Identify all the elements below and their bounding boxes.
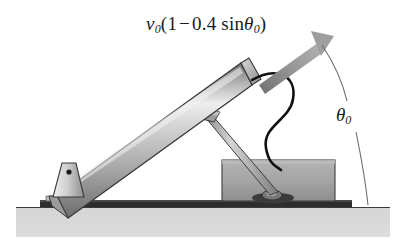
figure-root: v0(1−0.4 sinθ0) θ0 xyxy=(0,0,405,241)
velocity-arrow xyxy=(259,31,334,94)
theta-symbol: θ xyxy=(336,104,345,125)
coefficient: 0.4 xyxy=(192,13,216,34)
sin-function: sin xyxy=(221,13,244,34)
theta-label: θ0 xyxy=(336,104,351,128)
theta-subscript: 0 xyxy=(345,113,351,127)
close-paren: ) xyxy=(260,13,267,34)
velocity-symbol: v xyxy=(146,13,155,34)
angle-symbol: θ xyxy=(244,13,254,34)
minus-operator: − xyxy=(177,13,192,34)
one-term: 1 xyxy=(167,13,177,34)
pivot-pin xyxy=(66,169,71,174)
velocity-label: v0(1−0.4 sinθ0) xyxy=(146,13,266,37)
pivot-bracket xyxy=(53,163,84,197)
